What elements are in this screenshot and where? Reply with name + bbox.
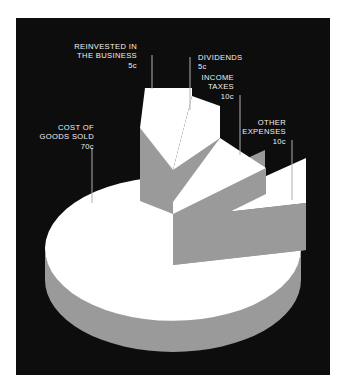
label-other-expenses: OTHER EXPENSES 10c: [242, 118, 286, 146]
label-cost-of-goods-sold-value: 70c: [39, 142, 94, 151]
label-income-taxes-line-1: INCOME: [202, 73, 234, 82]
label-dividends-line-1: DIVIDENDS: [198, 53, 243, 62]
chart-panel: REINVESTED IN THE BUSINESS 5c DIVIDENDS …: [16, 18, 330, 375]
label-dividends-value: 5c: [198, 62, 243, 71]
label-reinvested-value: 5c: [74, 61, 137, 70]
label-cost-of-goods-sold-line-2: GOODS SOLD: [39, 132, 94, 141]
label-dividends: DIVIDENDS 5c: [198, 53, 243, 72]
label-reinvested-in-the-business: REINVESTED IN THE BUSINESS 5c: [74, 42, 137, 70]
label-income-taxes-value: 10c: [202, 92, 234, 101]
label-reinvested-line-2: THE BUSINESS: [74, 51, 137, 60]
figure-canvas: REINVESTED IN THE BUSINESS 5c DIVIDENDS …: [0, 0, 343, 389]
label-income-taxes-line-2: TAXES: [202, 82, 234, 91]
label-other-expenses-line-1: OTHER: [242, 118, 286, 127]
label-cost-of-goods-sold: COST OF GOODS SOLD 70c: [39, 123, 94, 151]
label-cost-of-goods-sold-line-1: COST OF: [39, 123, 94, 132]
label-income-taxes: INCOME TAXES 10c: [202, 73, 234, 101]
label-other-expenses-line-2: EXPENSES: [242, 127, 286, 136]
label-reinvested-line-1: REINVESTED IN: [74, 42, 137, 51]
label-other-expenses-value: 10c: [242, 137, 286, 146]
pie-chart-graphic: [16, 18, 330, 375]
